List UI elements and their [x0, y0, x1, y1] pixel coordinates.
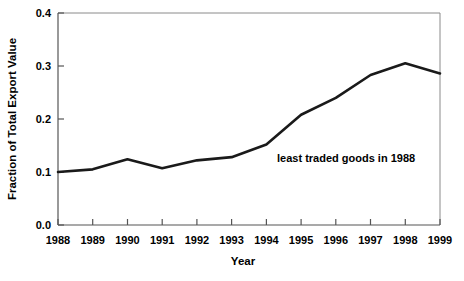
x-tick-label-1994: 1994: [254, 234, 279, 246]
x-tick-label-1991: 1991: [150, 234, 174, 246]
x-tick-label-1995: 1995: [289, 234, 313, 246]
y-tick-label-2: 0.2: [36, 113, 51, 125]
x-tick-label-1988: 1988: [46, 234, 70, 246]
x-tick-label-1998: 1998: [393, 234, 417, 246]
x-tick-label-1993: 1993: [219, 234, 243, 246]
x-tick-label-1999: 1999: [428, 234, 452, 246]
y-axis-title: Fraction of Total Export Value: [6, 38, 18, 200]
x-tick-label-1990: 1990: [115, 234, 139, 246]
x-tick-label-1997: 1997: [358, 234, 382, 246]
x-axis-title: Year: [231, 255, 256, 267]
x-tick-label-1992: 1992: [185, 234, 209, 246]
x-tick-label-1989: 1989: [80, 234, 104, 246]
chart-figure: 0.0 0.1 0.2 0.3 0.4 1988 1989 1990 1991 …: [0, 0, 464, 281]
y-tick-label-0: 0.0: [36, 219, 51, 231]
x-tick-label-1996: 1996: [324, 234, 348, 246]
y-tick-label-3: 0.3: [36, 60, 51, 72]
y-tick-label-4: 0.4: [36, 7, 52, 19]
series-annotation-label: least traded goods in 1988: [277, 152, 415, 164]
y-tick-label-1: 0.1: [36, 166, 51, 178]
plot-area-background: [58, 13, 440, 225]
line-chart: 0.0 0.1 0.2 0.3 0.4 1988 1989 1990 1991 …: [0, 0, 464, 281]
